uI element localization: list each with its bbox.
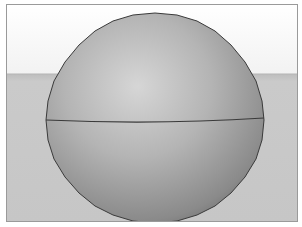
3d-viewport[interactable]: [6, 4, 298, 222]
sphere-model[interactable]: [7, 5, 298, 222]
